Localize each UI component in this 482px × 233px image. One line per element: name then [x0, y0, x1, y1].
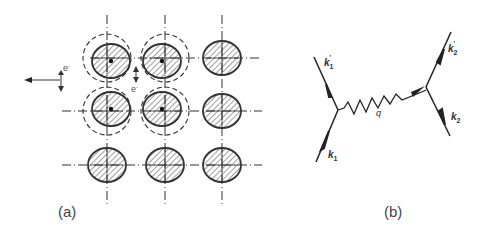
- label-k1: k1: [328, 149, 338, 162]
- electron-label-left: e-: [63, 63, 70, 73]
- label-q: q: [376, 108, 381, 118]
- arrow-down-icon: [58, 86, 64, 92]
- electron-center: e-: [131, 66, 139, 94]
- panel-b-feynman-diagram: k1' k1 k2' k2 q (b): [314, 32, 461, 220]
- panel-label-b: (b): [384, 203, 402, 220]
- atom-center-dot: [160, 107, 164, 111]
- arrow-k2prime-icon: [437, 49, 444, 64]
- arrow-k1-icon: [321, 131, 329, 150]
- lattice-atoms: [88, 41, 241, 182]
- electron-left: e-: [26, 63, 70, 92]
- figure: e- e- (a) k1' k1 k2' k2 q (b): [0, 0, 482, 233]
- arrow-k1prime-icon: [326, 84, 331, 97]
- label-k2prime: k2': [448, 40, 458, 56]
- arrow-down-icon: [133, 77, 139, 83]
- panel-label-a: (a): [58, 203, 76, 220]
- label-k1prime: k1': [324, 54, 334, 70]
- panel-a-lattice: e- e- (a): [26, 15, 262, 220]
- incoming-k2-line: [426, 87, 450, 136]
- electron-label-center: e-: [131, 84, 138, 94]
- label-k2: k2: [451, 111, 461, 124]
- atom-center-dot: [160, 59, 164, 63]
- arrow-up-icon: [133, 66, 139, 72]
- atom-center-dot: [109, 59, 113, 63]
- atom-center-dot: [109, 107, 113, 111]
